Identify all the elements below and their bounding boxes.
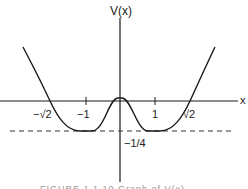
x-axis-label: x xyxy=(240,95,246,106)
potential-graph xyxy=(0,0,248,189)
tick-label-neg-sqrt2: −√2 xyxy=(33,109,52,120)
figure-caption: FIGURE 1.1.10 Graph of V(x) xyxy=(40,184,205,189)
tick-label-neg-1: −1 xyxy=(77,109,90,120)
min-value-label: −1/4 xyxy=(124,138,146,149)
tick-label-sqrt2: √2 xyxy=(183,109,195,120)
tick-label-1: 1 xyxy=(152,109,158,120)
y-axis-label: V(x) xyxy=(110,5,132,17)
